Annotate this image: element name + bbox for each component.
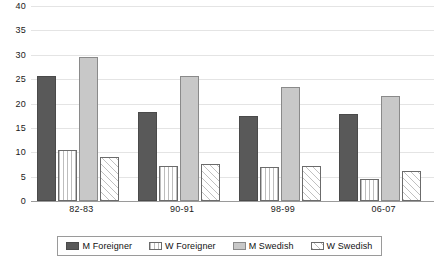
y-tick-label: 20 — [16, 99, 26, 108]
bar-group-82-83 — [31, 6, 132, 201]
bar-m-swedish-98-99[interactable] — [281, 87, 300, 201]
bar-w-swedish-06-07[interactable] — [402, 171, 421, 201]
bar-m-foreigner-06-07[interactable] — [339, 114, 358, 201]
bar-w-swedish-90-91[interactable] — [201, 164, 220, 201]
y-tick-label: 35 — [16, 26, 26, 35]
bar-m-swedish-82-83[interactable] — [79, 57, 98, 201]
legend-swatch-icon — [233, 242, 246, 250]
bar-w-swedish-98-99[interactable] — [302, 166, 321, 201]
y-axis: 0510152025303540 — [0, 0, 30, 201]
legend-item-m-swedish[interactable]: M Swedish — [233, 241, 294, 251]
legend-label: M Foreigner — [82, 241, 132, 251]
x-tick-label-98-99: 98-99 — [233, 203, 334, 215]
bar-m-foreigner-98-99[interactable] — [239, 116, 258, 201]
bar-w-swedish-82-83[interactable] — [100, 157, 119, 201]
bar-w-foreigner-06-07[interactable] — [360, 179, 379, 201]
bar-m-swedish-90-91[interactable] — [180, 76, 199, 201]
legend-item-w-foreigner[interactable]: W Foreigner — [149, 241, 216, 251]
bar-w-foreigner-98-99[interactable] — [260, 167, 279, 201]
x-tick-label-90-91: 90-91 — [132, 203, 233, 215]
bar-groups — [31, 6, 434, 201]
bar-w-foreigner-82-83[interactable] — [58, 150, 77, 201]
x-axis: 82-8390-9198-9906-07 — [31, 203, 434, 215]
bar-m-swedish-06-07[interactable] — [381, 96, 400, 201]
x-tick-label-82-83: 82-83 — [31, 203, 132, 215]
legend-swatch-icon — [311, 242, 324, 250]
y-tick-label: 30 — [16, 50, 26, 59]
bar-group-98-99 — [233, 6, 334, 201]
y-tick-label: 15 — [16, 123, 26, 132]
bar-chart: 0510152025303540 82-8390-9198-9906-07 M … — [0, 0, 438, 278]
bar-w-foreigner-90-91[interactable] — [159, 166, 178, 201]
bar-m-foreigner-90-91[interactable] — [138, 112, 157, 201]
legend-label: W Foreigner — [165, 241, 216, 251]
plot-area — [31, 6, 434, 202]
y-tick-label: 0 — [21, 197, 26, 206]
chart-legend: M ForeignerW ForeignerM SwedishW Swedish — [57, 236, 382, 256]
legend-swatch-icon — [66, 242, 79, 250]
bar-m-foreigner-82-83[interactable] — [37, 76, 56, 201]
y-tick-label: 40 — [16, 2, 26, 11]
legend-item-w-swedish[interactable]: W Swedish — [311, 241, 373, 251]
legend-label: W Swedish — [327, 241, 373, 251]
bar-group-06-07 — [333, 6, 434, 201]
legend-label: M Swedish — [249, 241, 294, 251]
legend-item-m-foreigner[interactable]: M Foreigner — [66, 241, 132, 251]
y-tick-label: 25 — [16, 75, 26, 84]
plot-wrapper: 0510152025303540 82-8390-9198-9906-07 — [0, 0, 438, 215]
legend-swatch-icon — [149, 242, 162, 250]
y-tick-label: 5 — [21, 172, 26, 181]
x-tick-label-06-07: 06-07 — [333, 203, 434, 215]
y-tick-label: 10 — [16, 148, 26, 157]
bar-group-90-91 — [132, 6, 233, 201]
